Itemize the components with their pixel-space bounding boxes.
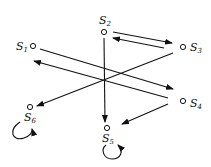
edge-s2-s5 <box>104 38 105 122</box>
edge-s3-s2 <box>113 38 164 48</box>
label-s3: S3 <box>190 41 203 55</box>
node-s3 <box>180 44 185 49</box>
edge-s2-s3 <box>113 32 172 43</box>
edge-s4-s1 <box>34 61 168 98</box>
label-s6: S6 <box>24 111 37 125</box>
edge-s1-s4 <box>40 49 173 89</box>
state-diagram: S2 S1 S3 S4 S5 S6 <box>0 0 211 167</box>
edge-s4-s5 <box>122 104 168 124</box>
node-s4 <box>180 98 185 103</box>
label-s5: S5 <box>102 132 115 146</box>
node-s5 <box>104 125 109 130</box>
node-s2 <box>101 29 106 34</box>
label-s1: S1 <box>16 40 28 54</box>
label-s2: S2 <box>99 14 112 28</box>
node-s1 <box>30 43 35 48</box>
label-s4: S4 <box>190 97 202 111</box>
node-s6 <box>27 104 32 109</box>
self-loop-s6 <box>13 122 32 139</box>
self-loop-s5 <box>103 145 121 159</box>
